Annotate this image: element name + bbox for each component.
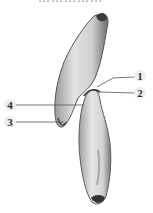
label-2: 2 [134,87,146,99]
label-1: 1 [134,70,146,82]
lower-cell-body [79,90,111,204]
leader-line-1 [97,77,135,87]
figure: …………… [0,0,153,213]
lower-cell [79,90,111,204]
label-3: 3 [4,116,16,128]
label-4: 4 [4,99,16,111]
illustration [0,0,153,213]
leader-line-2 [98,92,135,93]
